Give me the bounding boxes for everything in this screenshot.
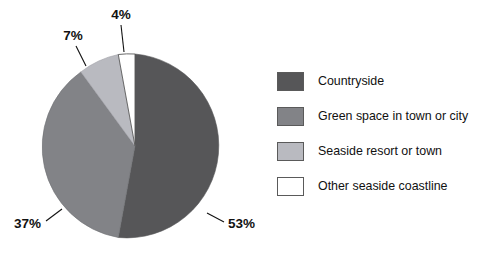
chart-legend: Countryside Green space in town or city … bbox=[277, 64, 492, 204]
leader-line-other-coastline bbox=[121, 25, 124, 52]
slice-label-seaside-resort: 7% bbox=[63, 28, 83, 43]
leader-line-countryside bbox=[207, 213, 224, 222]
legend-label-green-space: Green space in town or city bbox=[318, 109, 468, 123]
legend-swatch-green-space bbox=[277, 107, 304, 126]
legend-label-other-coastline: Other seaside coastline bbox=[318, 179, 448, 193]
slice-label-countryside: 53% bbox=[228, 216, 255, 231]
slice-label-green-space: 37% bbox=[14, 216, 41, 231]
slice-label-other-coastline: 4% bbox=[111, 7, 131, 22]
legend-item-green-space[interactable]: Green space in town or city bbox=[277, 99, 492, 134]
legend-swatch-other-coastline bbox=[277, 177, 304, 196]
legend-swatch-countryside bbox=[277, 72, 304, 91]
legend-swatch-seaside-resort bbox=[277, 142, 304, 161]
legend-item-countryside[interactable]: Countryside bbox=[277, 64, 492, 99]
leader-line-green-space bbox=[46, 209, 62, 221]
legend-label-seaside-resort: Seaside resort or town bbox=[318, 144, 442, 158]
legend-item-seaside-resort[interactable]: Seaside resort or town bbox=[277, 134, 492, 169]
pie-chart: 53% 37% 7% 4% Countryside Green space in… bbox=[0, 0, 495, 267]
legend-item-other-coastline[interactable]: Other seaside coastline bbox=[277, 169, 492, 204]
leader-line-seaside-resort bbox=[76, 46, 86, 66]
legend-label-countryside: Countryside bbox=[318, 74, 384, 88]
